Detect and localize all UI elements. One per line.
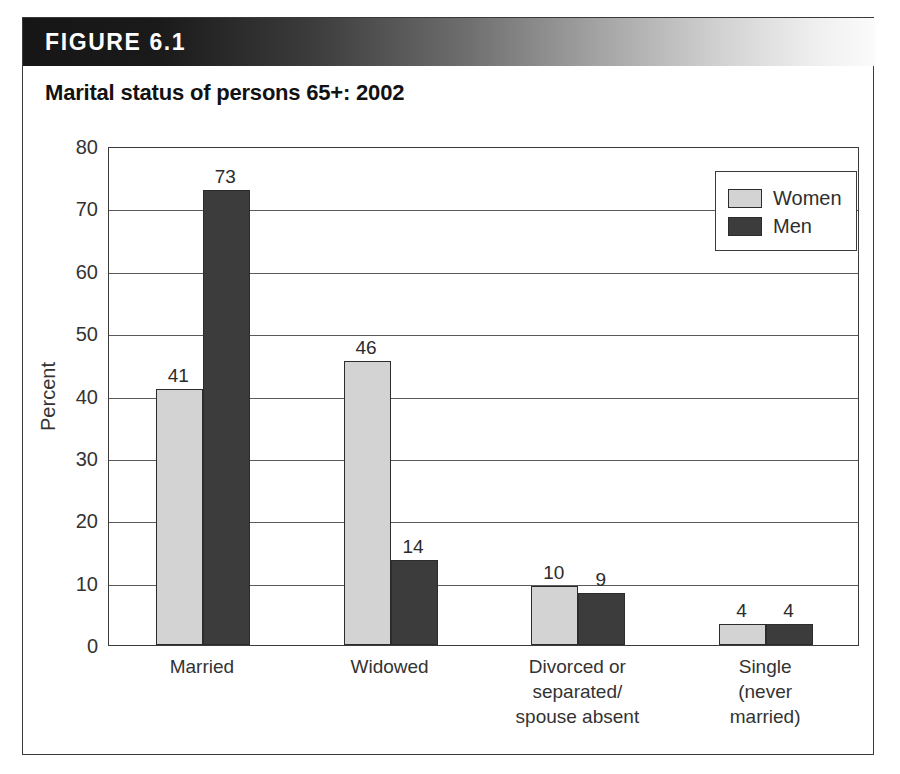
chart-plot-wrapper: Percent WomenMen 80706050403020100417346… bbox=[23, 18, 875, 756]
y-axis-tick-label: 0 bbox=[56, 635, 98, 658]
y-axis-tick-label: 70 bbox=[56, 198, 98, 221]
bar-men-1 bbox=[391, 560, 438, 645]
legend-label: Women bbox=[773, 187, 842, 210]
bar-men-2 bbox=[578, 593, 625, 645]
bar-value-label: 14 bbox=[403, 536, 424, 558]
bar-value-label: 4 bbox=[783, 600, 794, 622]
x-axis-category-label: Married bbox=[170, 654, 234, 679]
bar-value-label: 10 bbox=[543, 562, 564, 584]
bar-men-0 bbox=[203, 190, 250, 645]
bar-women-2 bbox=[531, 586, 578, 645]
chart-legend: WomenMen bbox=[715, 171, 857, 251]
bar-value-label: 4 bbox=[736, 600, 747, 622]
figure-card: FIGURE 6.1 Marital status of persons 65+… bbox=[22, 17, 874, 755]
y-axis-tick-label: 30 bbox=[56, 447, 98, 470]
y-axis-tick-label: 50 bbox=[56, 323, 98, 346]
bar-men-3 bbox=[766, 624, 813, 645]
legend-item-women[interactable]: Women bbox=[728, 185, 842, 211]
x-axis-category-label: Divorced or separated/ spouse absent bbox=[516, 654, 640, 729]
bar-women-0 bbox=[156, 389, 203, 645]
x-axis-category-label: Single (never married) bbox=[730, 654, 801, 729]
bar-value-label: 9 bbox=[596, 569, 607, 591]
y-axis-tick-label: 20 bbox=[56, 510, 98, 533]
bar-women-3 bbox=[719, 624, 766, 645]
bar-value-label: 73 bbox=[215, 166, 236, 188]
legend-item-men[interactable]: Men bbox=[728, 213, 812, 239]
legend-swatch-women bbox=[728, 189, 762, 208]
legend-label: Men bbox=[773, 215, 812, 238]
legend-swatch-men bbox=[728, 217, 762, 236]
y-axis-tick-label: 80 bbox=[56, 136, 98, 159]
bar-women-1 bbox=[344, 361, 391, 645]
y-axis-tick-label: 60 bbox=[56, 260, 98, 283]
x-axis-category-label: Widowed bbox=[351, 654, 429, 679]
y-axis-tick-label: 40 bbox=[56, 385, 98, 408]
bar-value-label: 41 bbox=[168, 365, 189, 387]
y-axis-tick-label: 10 bbox=[56, 572, 98, 595]
bar-value-label: 46 bbox=[356, 337, 377, 359]
